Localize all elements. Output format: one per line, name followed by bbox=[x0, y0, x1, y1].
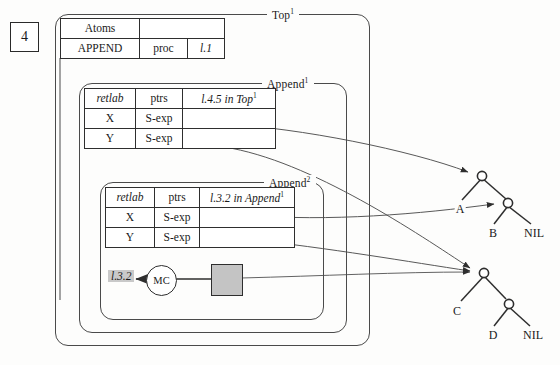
append2-row1-retlab: Y bbox=[106, 228, 155, 248]
atoms-table: Atoms APPEND proc l.1 bbox=[60, 18, 225, 59]
table-row: Y S-exp bbox=[85, 129, 276, 149]
tree-lower bbox=[461, 276, 530, 326]
append1-row1-retlab: Y bbox=[85, 129, 136, 149]
atoms-row-label: l.1 bbox=[188, 39, 225, 59]
frame-label-top-text: Top bbox=[272, 9, 290, 21]
cons-node-upper-root bbox=[477, 171, 486, 180]
leaf-upper-cadr: B bbox=[488, 226, 498, 241]
leaf-upper-car: A bbox=[455, 202, 466, 217]
table-row: Atoms bbox=[61, 19, 225, 39]
append2-header-retlab: retlab bbox=[106, 188, 155, 208]
atoms-header-hatched-cell bbox=[140, 19, 225, 39]
tree-upper bbox=[462, 178, 531, 224]
table-row: X S-exp bbox=[85, 109, 276, 129]
atoms-header-name: Atoms bbox=[61, 19, 140, 39]
append2-row0-value bbox=[200, 208, 295, 228]
append1-header-retlab: retlab bbox=[85, 89, 136, 109]
frame-label-top: Top1 bbox=[267, 7, 299, 21]
leaf-lower-cadr: D bbox=[488, 328, 499, 343]
leaf-lower-car: C bbox=[452, 304, 462, 319]
table-header-row: retlab ptrs l.3.2 in Append1 bbox=[106, 188, 295, 208]
append1-table: retlab ptrs l.4.5 in Top1 X S-exp Y S-ex… bbox=[84, 88, 276, 149]
append2-row0-ptrs: S-exp bbox=[155, 208, 200, 228]
append1-header-ret-text: l.4.5 in Top bbox=[201, 93, 253, 105]
leaf-upper-nil: NIL bbox=[523, 226, 545, 241]
append1-row0-ptrs: S-exp bbox=[136, 109, 183, 129]
append1-row1-value bbox=[183, 129, 276, 149]
atoms-row-name: APPEND bbox=[61, 39, 140, 59]
table-header-row: retlab ptrs l.4.5 in Top1 bbox=[85, 89, 276, 109]
mc-node-label: MC bbox=[153, 275, 169, 286]
frame-label-top-sup: 1 bbox=[290, 7, 294, 16]
figure-number-text: 4 bbox=[21, 29, 28, 45]
atoms-row-kind: proc bbox=[140, 39, 188, 59]
cons-node-upper-right bbox=[503, 198, 512, 207]
cons-node-lower-root bbox=[479, 268, 488, 277]
frame-label-append2-sup: 2 bbox=[307, 175, 311, 184]
append1-row0-retlab: X bbox=[85, 109, 136, 129]
leaf-lower-nil: NIL bbox=[522, 328, 544, 343]
frame-label-append1-sup: 1 bbox=[305, 76, 309, 85]
append2-row0-retlab: X bbox=[106, 208, 155, 228]
table-row: X S-exp bbox=[106, 208, 295, 228]
append2-header-ptrs: ptrs bbox=[155, 188, 200, 208]
mc-node: MC bbox=[146, 265, 177, 296]
append2-header-ret: l.3.2 in Append1 bbox=[200, 188, 295, 208]
append2-row1-ptrs: S-exp bbox=[155, 228, 200, 248]
cons-node-lower-right bbox=[504, 299, 513, 308]
mc-pointer-cell bbox=[211, 264, 243, 296]
figure-canvas: Top1 Append1 Append2 4 Atoms APPEND proc… bbox=[0, 0, 560, 365]
append2-row1-value bbox=[200, 228, 295, 248]
table-row: Y S-exp bbox=[106, 228, 295, 248]
figure-number: 4 bbox=[10, 22, 39, 52]
append1-row0-value bbox=[183, 109, 276, 129]
append1-header-ret: l.4.5 in Top1 bbox=[183, 89, 276, 109]
table-row: APPEND proc l.1 bbox=[61, 39, 225, 59]
append1-header-ret-sup: 1 bbox=[253, 91, 257, 100]
append1-header-ptrs: ptrs bbox=[136, 89, 183, 109]
append1-row1-ptrs: S-exp bbox=[136, 129, 183, 149]
append2-table: retlab ptrs l.3.2 in Append1 X S-exp Y S… bbox=[105, 187, 295, 248]
append2-header-ret-sup: 1 bbox=[280, 190, 284, 199]
mc-return-label: l.3.2 bbox=[108, 270, 134, 282]
append2-header-ret-text: l.3.2 in Append bbox=[210, 192, 280, 204]
